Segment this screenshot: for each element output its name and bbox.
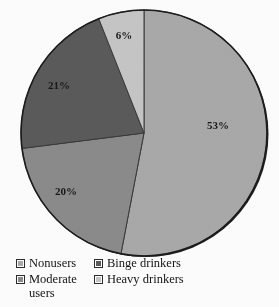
pie-chart-plot-area: 53% 20% 21% 6%	[0, 0, 279, 260]
pie-label-moderate-users: 20%	[55, 185, 77, 197]
legend-label-moderate-users: Moderate users	[29, 272, 77, 300]
legend-label-heavy-drinkers: Heavy drinkers	[107, 272, 184, 286]
pie-chart-figure: 53% 20% 21% 6% Nonusers Binge drinkers M…	[0, 0, 279, 307]
pie-chart-svg: 53% 20% 21% 6%	[0, 0, 279, 260]
legend-item-moderate-users[interactable]: Moderate users	[16, 272, 94, 300]
legend-swatch-icon	[16, 259, 25, 268]
legend-row: Nonusers Binge drinkers	[16, 256, 266, 270]
pie-label-binge-drinkers: 21%	[48, 79, 70, 91]
pie-label-heavy-drinkers: 6%	[116, 29, 133, 41]
legend-item-binge-drinkers[interactable]: Binge drinkers	[94, 256, 181, 270]
legend-item-nonusers[interactable]: Nonusers	[16, 256, 94, 270]
chart-legend: Nonusers Binge drinkers Moderate users H…	[16, 256, 266, 300]
legend-label-nonusers: Nonusers	[29, 256, 76, 270]
pie-label-nonusers: 53%	[207, 119, 229, 131]
legend-swatch-icon	[94, 275, 103, 284]
legend-swatch-icon	[16, 275, 25, 284]
legend-label-binge-drinkers: Binge drinkers	[107, 256, 181, 270]
legend-row: Moderate users Heavy drinkers	[16, 272, 266, 300]
legend-item-heavy-drinkers[interactable]: Heavy drinkers	[94, 272, 184, 286]
legend-swatch-icon	[94, 259, 103, 268]
